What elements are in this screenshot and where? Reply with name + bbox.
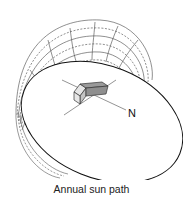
- sun-path-diagram: [0, 0, 183, 180]
- north-label: N: [128, 107, 136, 119]
- caption: Annual sun path: [0, 183, 183, 195]
